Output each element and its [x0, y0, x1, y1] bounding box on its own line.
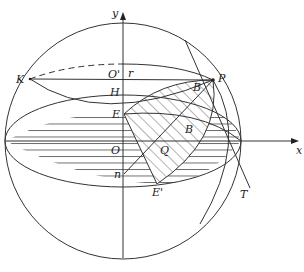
label-H: H [109, 86, 120, 99]
y-axis-arrow-icon [120, 12, 126, 20]
label-n: n [114, 168, 121, 181]
label-K: K [15, 73, 25, 86]
point-P-dot [211, 78, 215, 82]
label-O-prime: O' [108, 68, 120, 81]
label-x-axis: x [296, 144, 303, 157]
label-B-lower: B [184, 123, 193, 136]
label-Q: Q [160, 144, 169, 157]
sphere-diagram: y x K O' r P H E B B O Q n E' T [0, 0, 304, 272]
chord-KP [30, 79, 213, 80]
label-O: O [111, 144, 120, 157]
label-E: E [111, 108, 120, 121]
point-K-dot [29, 78, 32, 81]
label-E-prime: E' [151, 186, 163, 199]
label-r: r [128, 67, 134, 80]
label-P: P [217, 72, 226, 85]
label-B-upper: B [192, 81, 201, 94]
label-y-axis: y [111, 7, 119, 20]
label-T: T [240, 188, 249, 201]
